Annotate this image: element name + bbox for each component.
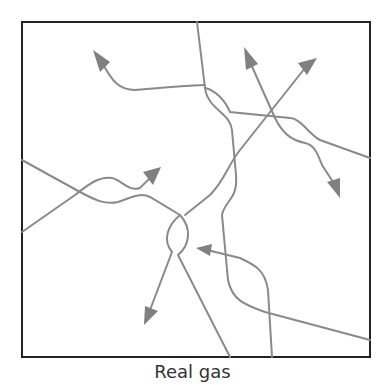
- trajectory-top-left: [102, 62, 205, 90]
- arrowhead-down-icon: [327, 178, 340, 198]
- trajectory-diag-up-right: [185, 68, 305, 215]
- trajectory-left-lower: [22, 178, 150, 232]
- trajectory-bottom-left-arrow: [207, 250, 272, 357]
- real-gas-figure: Real gas: [0, 0, 385, 389]
- trajectory-left-upper: [22, 160, 230, 357]
- arrowhead-up-left-icon: [93, 50, 110, 72]
- figure-caption: Real gas: [0, 361, 385, 382]
- arrowhead-left-icon: [196, 244, 212, 256]
- arrowhead-up-icon: [244, 47, 258, 70]
- diagram-canvas: [0, 0, 385, 389]
- trajectory-up-down: [250, 62, 335, 185]
- trajectory-down-left: [150, 215, 180, 310]
- arrowhead-down-left-icon: [144, 306, 158, 325]
- trajectory-top-vertical: [197, 22, 370, 340]
